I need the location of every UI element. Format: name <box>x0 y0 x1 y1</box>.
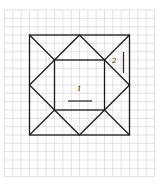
diagonal-top-right <box>105 35 130 60</box>
diagonal-top-left <box>30 35 55 60</box>
diagram-canvas: 1 2 <box>0 0 160 189</box>
diagonal-bottom-right <box>105 110 130 135</box>
diagonal-bottom-left <box>30 110 55 135</box>
region-label-2: 2 <box>111 57 117 65</box>
region-label-1: 1 <box>77 85 81 93</box>
